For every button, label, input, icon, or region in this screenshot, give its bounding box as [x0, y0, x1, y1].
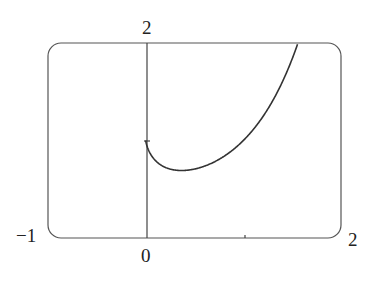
y-max-label: 2 — [142, 18, 152, 37]
x-origin-label: 0 — [141, 246, 151, 265]
plot-area — [0, 0, 375, 281]
viewing-window-frame — [48, 43, 341, 238]
x-min-label: −1 — [16, 226, 36, 245]
x-max-label: 2 — [348, 230, 358, 249]
function-curve — [146, 44, 298, 170]
